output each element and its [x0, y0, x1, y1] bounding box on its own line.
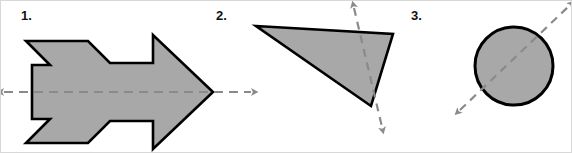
shape-number-label-1: 1. [21, 9, 32, 22]
shape-group-3 [460, 6, 569, 110]
triangle-shape [256, 26, 393, 106]
circle-shape [475, 27, 553, 105]
shapes-canvas [1, 1, 572, 153]
shape-group-1 [4, 35, 251, 149]
shape-number-label-2: 2. [216, 9, 227, 22]
figure-container: 1. 2. 3. [0, 0, 572, 153]
shape-number-label-3: 3. [411, 9, 422, 22]
shape-group-2 [256, 8, 393, 127]
